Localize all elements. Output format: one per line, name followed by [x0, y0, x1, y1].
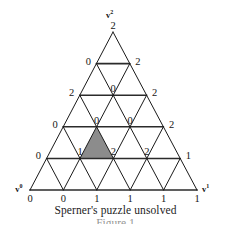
vertex-label: 0 [52, 119, 57, 130]
vertex-label: 0 [27, 193, 32, 204]
vertex-label: 1 [128, 193, 133, 204]
grid-line-diagonal-right [80, 95, 130, 190]
vertex-label: 2 [144, 146, 149, 157]
triangulation-grid [30, 32, 197, 190]
corner-label-apex: v2 [106, 9, 113, 19]
vertex-label: 0 [61, 193, 66, 204]
vertex-label: 2 [135, 56, 140, 67]
vertex-label: 1 [186, 150, 191, 161]
figure-number-cut: Figure 1 [0, 217, 231, 224]
figure-caption-block: Sperner's puzzle unsolved Figure 1 [0, 203, 231, 224]
figure-caption: Sperner's puzzle unsolved [0, 203, 231, 217]
vertex-label: 0 [111, 83, 116, 94]
corner-label-right: v1 [202, 183, 209, 193]
grid-line-diagonal-right [113, 32, 197, 190]
shaded-cell-layer [80, 127, 113, 159]
vertex-label: 1 [194, 193, 199, 204]
vertex-label: 1 [161, 193, 166, 204]
vertex-label-layer: 202202000201221001111 [27, 20, 199, 204]
vertex-label: 1 [94, 193, 99, 204]
vertex-label: 2 [110, 20, 115, 31]
vertex-label: 0 [86, 56, 91, 67]
vertex-label: 2 [152, 87, 157, 98]
vertex-label: 0 [36, 150, 41, 161]
vertex-label: 2 [169, 119, 174, 130]
vertex-label: 2 [111, 146, 116, 157]
grid-line-diagonal-right [47, 158, 64, 190]
grid-line-diagonal-left [164, 158, 181, 190]
sperner-triangle-diagram: 202202000201221001111 v2v0v1 [0, 0, 231, 232]
grid-line-diagonal-left [30, 32, 113, 190]
corner-label-left: v0 [15, 183, 22, 193]
vertex-label: 0 [94, 115, 99, 126]
shaded-triangle-cell [80, 127, 113, 159]
vertex-label: 2 [69, 87, 74, 98]
corner-label-layer: v2v0v1 [15, 9, 209, 193]
vertex-label: 1 [77, 146, 82, 157]
vertex-label: 0 [127, 115, 132, 126]
sperner-figure: 202202000201221001111 v2v0v1 Sperner's p… [0, 0, 231, 232]
